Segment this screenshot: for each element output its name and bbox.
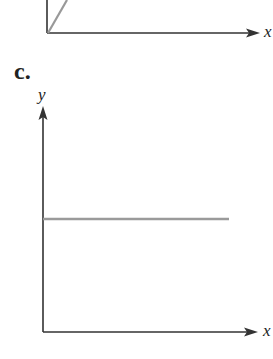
top-diagonal-line [48, 0, 67, 33]
c-x-axis-label: x [263, 321, 271, 341]
diagram-canvas [0, 0, 273, 359]
top-x-axis-label: x [264, 22, 272, 42]
top-graph [47, 0, 260, 38]
panel-c-graph [39, 106, 259, 337]
panel-c-label: c. [14, 58, 31, 85]
c-y-axis-label: y [38, 85, 46, 105]
